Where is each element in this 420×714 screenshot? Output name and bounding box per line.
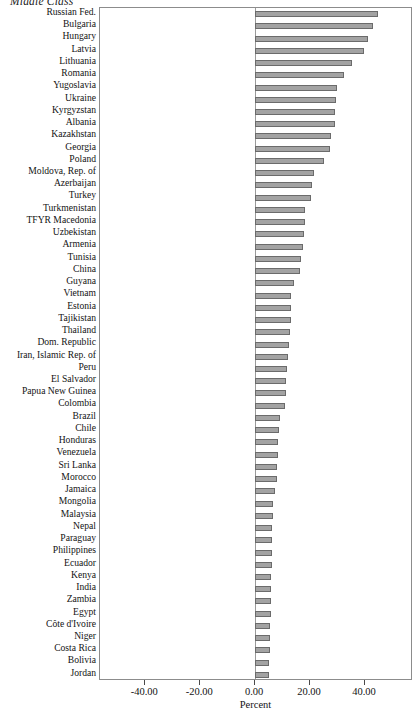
bar	[255, 476, 277, 482]
bar	[255, 256, 301, 262]
bar	[255, 623, 270, 629]
category-label: Albania	[0, 117, 96, 128]
category-label: Colombia	[0, 398, 96, 409]
bar	[255, 366, 287, 372]
bar	[255, 11, 377, 17]
category-label: Armenia	[0, 239, 96, 250]
bar	[255, 611, 270, 617]
bar	[255, 513, 273, 519]
category-label: Sri Lanka	[0, 460, 96, 471]
bar	[255, 439, 278, 445]
x-tick-mark	[199, 680, 200, 685]
category-label: Ukraine	[0, 93, 96, 104]
bar	[255, 60, 352, 66]
category-label: Kyrgyzstan	[0, 105, 96, 116]
category-label: Egypt	[0, 607, 96, 618]
bar	[255, 586, 271, 592]
bar	[255, 231, 304, 237]
x-tick-label: 20.00	[279, 686, 339, 697]
bar	[255, 109, 335, 115]
category-label: Venezuela	[0, 447, 96, 458]
category-label: Brazil	[0, 411, 96, 422]
category-label: Dom. Republic	[0, 337, 96, 348]
category-label: Yugoslavia	[0, 80, 96, 91]
category-label: Nepal	[0, 521, 96, 532]
bar	[255, 48, 364, 54]
bar	[255, 342, 289, 348]
category-label: Papua New Guinea	[0, 386, 96, 397]
x-tick-label: 0.00	[224, 686, 284, 697]
category-label: China	[0, 264, 96, 275]
bar	[255, 574, 271, 580]
x-tick-label: -40.00	[114, 686, 174, 697]
bar	[255, 268, 300, 274]
bar	[255, 207, 305, 213]
bar	[255, 378, 286, 384]
category-label: Romania	[0, 68, 96, 79]
category-label: Jordan	[0, 668, 96, 679]
category-label: Tajikistan	[0, 313, 96, 324]
bar	[255, 133, 331, 139]
category-label: Turkey	[0, 190, 96, 201]
category-label: Moldova, Rep. of	[0, 166, 96, 177]
bar	[255, 195, 311, 201]
bar	[255, 182, 312, 188]
bar	[255, 427, 279, 433]
category-label: Georgia	[0, 142, 96, 153]
bar	[255, 158, 324, 164]
category-label: Honduras	[0, 435, 96, 446]
bar	[255, 219, 304, 225]
plot-area	[99, 7, 412, 680]
bar	[255, 23, 373, 29]
category-label: Paraguay	[0, 533, 96, 544]
bar	[255, 146, 330, 152]
bar	[255, 525, 272, 531]
bar	[255, 464, 277, 470]
bar	[255, 354, 287, 360]
category-label: Tunisia	[0, 252, 96, 263]
bar	[255, 562, 271, 568]
bar	[255, 97, 336, 103]
category-label: Ecuador	[0, 558, 96, 569]
x-tick-mark	[144, 680, 145, 685]
bar	[255, 672, 269, 678]
bar	[255, 488, 275, 494]
bar	[255, 550, 272, 556]
category-label: Kenya	[0, 570, 96, 581]
category-axis-labels: Russian Fed.BulgariaHungaryLatviaLithuan…	[0, 7, 96, 680]
chart-figure: Middle Class Russian Fed.BulgariaHungary…	[0, 0, 420, 714]
bar	[255, 390, 286, 396]
bar	[255, 36, 368, 42]
category-label: Chile	[0, 423, 96, 434]
bar	[255, 72, 344, 78]
category-label: Latvia	[0, 44, 96, 55]
category-label: Thailand	[0, 325, 96, 336]
category-label: Philippines	[0, 545, 96, 556]
category-label: Estonia	[0, 301, 96, 312]
category-label: Uzbekistan	[0, 227, 96, 238]
category-label: Bolivia	[0, 655, 96, 666]
bar	[255, 293, 291, 299]
category-label: Zambia	[0, 594, 96, 605]
category-label: Costa Rica	[0, 643, 96, 654]
category-label: Bulgaria	[0, 19, 96, 30]
x-tick-mark	[254, 680, 255, 685]
category-label: Vietnam	[0, 288, 96, 299]
bar	[255, 403, 284, 409]
x-axis-title: Percent	[99, 699, 412, 710]
category-label: El Salvador	[0, 374, 96, 385]
category-label: TFYR Macedonia	[0, 215, 96, 226]
category-label: Côte d'Ivoire	[0, 619, 96, 630]
category-label: Russian Fed.	[0, 7, 96, 18]
bar	[255, 537, 272, 543]
category-label: Malaysia	[0, 509, 96, 520]
category-label: Turkmenistan	[0, 203, 96, 214]
bar	[255, 170, 314, 176]
bar	[255, 329, 290, 335]
category-label: Mongolia	[0, 496, 96, 507]
category-label: Morocco	[0, 472, 96, 483]
category-label: Hungary	[0, 31, 96, 42]
bar	[255, 305, 291, 311]
bar	[255, 452, 278, 458]
bar	[255, 85, 337, 91]
